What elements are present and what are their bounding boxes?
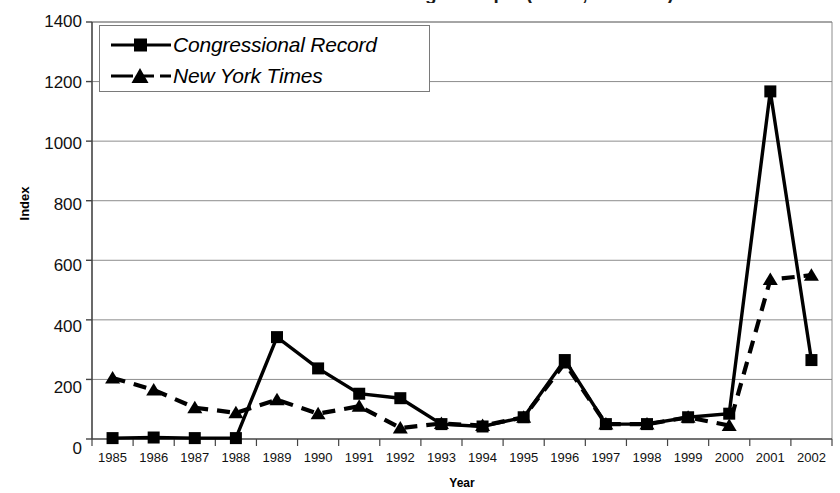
data-point-marker	[312, 362, 324, 374]
x-tick-label: 1988	[221, 451, 250, 464]
x-axis-title: Year	[92, 476, 832, 490]
x-tick-label: 1995	[509, 451, 538, 464]
x-tick-label: 2000	[715, 451, 744, 464]
x-tick-label: 1990	[304, 451, 333, 464]
x-tick-label: 1998	[633, 451, 662, 464]
data-point-marker	[148, 432, 160, 444]
data-point-marker	[230, 432, 242, 444]
x-tick-label: 1997	[591, 451, 620, 464]
series-line-new-york-times	[113, 275, 812, 428]
data-point-marker	[353, 388, 365, 400]
data-point-marker	[763, 273, 778, 286]
data-point-marker	[105, 371, 120, 384]
x-tick-label: 1994	[468, 451, 497, 464]
x-tick-label: 1996	[550, 451, 579, 464]
series-line-congressional-record	[113, 91, 812, 438]
data-point-marker	[271, 331, 283, 343]
legend-item-new-york-times[interactable]: New York Times	[100, 60, 429, 91]
data-point-marker	[189, 432, 201, 444]
data-point-marker	[805, 354, 817, 366]
x-tick-label: 2001	[756, 451, 785, 464]
x-tick-label: 1986	[139, 451, 168, 464]
data-point-marker	[764, 85, 776, 97]
data-point-marker	[270, 393, 285, 406]
x-tick-label: 2002	[797, 451, 826, 464]
x-tick-label: 1992	[386, 451, 415, 464]
chart-legend: Congressional Record New York Times	[99, 25, 430, 92]
x-tick-label: 1991	[345, 451, 374, 464]
x-axis-ticks	[92, 439, 832, 446]
x-tick-label: 1987	[180, 451, 209, 464]
x-tick-label: 1985	[98, 451, 127, 464]
data-point-marker	[394, 392, 406, 404]
chart-container: Number of stories mentioning the topic (…	[0, 0, 840, 493]
data-point-marker	[146, 383, 161, 396]
data-point-marker	[107, 432, 119, 444]
x-tick-label: 1989	[263, 451, 292, 464]
legend-label: New York Times	[173, 64, 323, 88]
square-marker-icon	[109, 34, 173, 56]
x-tick-label: 1999	[674, 451, 703, 464]
legend-label: Congressional Record	[173, 33, 377, 57]
triangle-marker-icon	[109, 65, 173, 87]
legend-item-congressional-record[interactable]: Congressional Record	[100, 29, 429, 60]
x-tick-label: 1993	[427, 451, 456, 464]
data-series-layer	[105, 85, 819, 444]
